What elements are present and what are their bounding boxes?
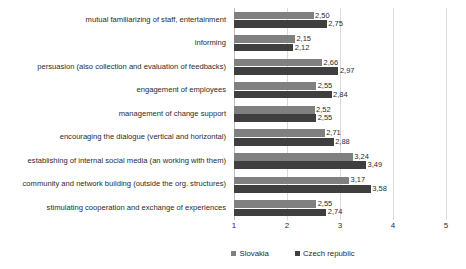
bar-value-label: 3,17	[351, 177, 366, 185]
bar-slovakia: 2,15	[234, 35, 295, 43]
bar-value-label: 2,55	[318, 82, 333, 90]
bar-czech-republic: 2,97	[234, 67, 338, 75]
x-tick-label: 5	[444, 222, 448, 230]
bar-slovakia: 2,55	[234, 200, 316, 208]
bar-group: 2,522,55	[234, 102, 446, 126]
x-tick-label: 3	[338, 222, 342, 230]
plot-area: 2,502,752,152,122,662,972,552,842,522,55…	[234, 8, 446, 220]
bar-slovakia: 3,24	[234, 153, 353, 161]
category-axis-labels: mutual familiarizing of staff, entertain…	[0, 8, 230, 220]
bar-czech-republic: 2,74	[234, 209, 326, 217]
legend: SlovakiaCzech republic	[0, 250, 466, 258]
bar-value-label: 2,75	[328, 20, 343, 28]
gridline-5	[446, 8, 447, 220]
category-label: community and network building (outside …	[0, 173, 230, 197]
bar-czech-republic: 2,12	[234, 44, 293, 52]
bar-value-label: 2,97	[340, 67, 355, 75]
bar-group-bars: 2,662,97	[234, 55, 446, 79]
bar-czech-republic: 3,58	[234, 185, 371, 193]
category-label: informing	[0, 32, 230, 56]
bar-group: 3,243,49	[234, 149, 446, 173]
bar-value-label: 2,66	[323, 59, 338, 67]
bar-slovakia: 2,66	[234, 59, 322, 67]
x-tick-label: 1	[232, 222, 236, 230]
category-label: management of change support	[0, 102, 230, 126]
legend-item-slovakia[interactable]: Slovakia	[231, 250, 268, 258]
bar-value-label: 2,88	[335, 138, 350, 146]
legend-label: Slovakia	[239, 250, 268, 258]
bar-group: 2,552,74	[234, 196, 446, 220]
bar-group: 3,173,58	[234, 173, 446, 197]
bar-slovakia: 2,52	[234, 106, 315, 114]
bar-value-label: 2,71	[326, 130, 341, 138]
bar-value-label: 2,55	[318, 114, 333, 122]
bar-group: 2,152,12	[234, 32, 446, 56]
bar-group-bars: 2,552,74	[234, 196, 446, 220]
legend-label: Czech republic	[303, 250, 355, 258]
category-label: encouraging the dialogue (vertical and h…	[0, 126, 230, 150]
legend-swatch-icon	[231, 251, 236, 256]
bar-group-bars: 2,502,75	[234, 8, 446, 32]
x-axis: 12345	[234, 220, 446, 234]
bar-value-label: 3,24	[354, 153, 369, 161]
category-label: persuasion (also collection and evaluati…	[0, 55, 230, 79]
bar-group: 2,662,97	[234, 55, 446, 79]
legend-item-czech-republic[interactable]: Czech republic	[295, 250, 355, 258]
bar-czech-republic: 2,75	[234, 20, 327, 28]
bar-group-bars: 3,173,58	[234, 173, 446, 197]
bar-value-label: 3,58	[372, 185, 387, 193]
bar-group-bars: 3,243,49	[234, 149, 446, 173]
bar-slovakia: 2,71	[234, 129, 325, 137]
bar-value-label: 2,50	[315, 12, 330, 20]
bar-group: 2,712,88	[234, 126, 446, 150]
x-tick-label: 4	[391, 222, 395, 230]
bar-group-bars: 2,152,12	[234, 32, 446, 56]
category-label: establishing of internal social media (a…	[0, 149, 230, 173]
bar-value-label: 2,74	[328, 209, 343, 217]
bar-czech-republic: 2,84	[234, 91, 332, 99]
bar-value-label: 2,12	[295, 44, 310, 52]
bar-slovakia: 3,17	[234, 177, 349, 185]
bar-czech-republic: 2,55	[234, 114, 316, 122]
bar-czech-republic: 3,49	[234, 161, 366, 169]
category-label: engagement of employees	[0, 79, 230, 103]
bar-rows: 2,502,752,152,122,662,972,552,842,522,55…	[234, 8, 446, 220]
bar-slovakia: 2,50	[234, 12, 314, 20]
bar-czech-republic: 2,88	[234, 138, 334, 146]
bar-value-label: 3,49	[367, 162, 382, 170]
bar-chart: mutual familiarizing of staff, entertain…	[0, 0, 466, 269]
bar-group-bars: 2,552,84	[234, 79, 446, 103]
legend-swatch-icon	[295, 251, 300, 256]
x-tick-label: 2	[285, 222, 289, 230]
bar-value-label: 2,52	[316, 106, 331, 114]
bar-value-label: 2,84	[333, 91, 348, 99]
bar-slovakia: 2,55	[234, 82, 316, 90]
bar-group-bars: 2,712,88	[234, 126, 446, 150]
bar-group: 2,502,75	[234, 8, 446, 32]
category-label: mutual familiarizing of staff, entertain…	[0, 8, 230, 32]
bar-value-label: 2,15	[296, 35, 311, 43]
category-label: stimulating cooperation and exchange of …	[0, 196, 230, 220]
bar-group-bars: 2,522,55	[234, 102, 446, 126]
bar-group: 2,552,84	[234, 79, 446, 103]
bar-value-label: 2,55	[318, 200, 333, 208]
